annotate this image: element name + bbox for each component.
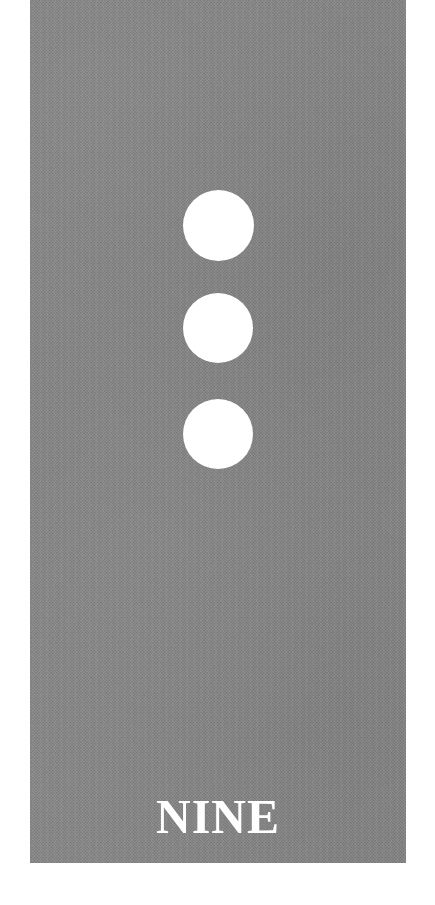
flash-card[interactable]: NINE — [30, 0, 406, 863]
dot-group — [30, 0, 406, 520]
dot-circle-2 — [183, 293, 253, 363]
page-canvas: NINE — [0, 0, 435, 905]
card-caption: NINE — [30, 793, 406, 841]
dot-circle-1 — [183, 190, 254, 261]
dot-circle-3 — [183, 399, 253, 469]
